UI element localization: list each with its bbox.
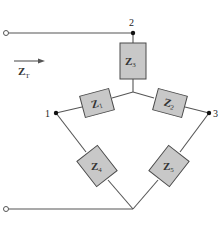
wire-center-z2 <box>133 92 154 98</box>
impedance-z3: Z3 <box>120 43 146 79</box>
impedance-z4: Z4 <box>77 145 117 186</box>
bottom-terminal <box>4 207 9 212</box>
wire-node3-z5 <box>180 113 209 152</box>
zt-arrow-icon <box>14 59 45 64</box>
node-2 <box>131 31 135 35</box>
wire-center-z1 <box>112 92 133 98</box>
circuit-diagram: ZT Z3 Z1 Z2 Z4 Z5 2 1 <box>0 0 223 225</box>
node-1 <box>54 111 58 115</box>
wire-z1-node1 <box>56 107 82 113</box>
impedance-z1: Z1 <box>80 88 115 117</box>
node-1-label: 1 <box>45 108 50 119</box>
wire-z4-bottom <box>108 180 133 209</box>
top-terminal <box>4 31 9 36</box>
node-3 <box>207 111 211 115</box>
wire-z2-node3 <box>185 107 209 113</box>
wire-node1-z4 <box>56 113 86 152</box>
node-3-label: 3 <box>213 108 218 119</box>
zt-label: ZT <box>18 65 30 80</box>
impedance-z2: Z2 <box>153 88 188 117</box>
impedance-z5: Z5 <box>149 145 189 186</box>
node-2-label: 2 <box>129 17 134 28</box>
wire-z5-bottom <box>133 180 158 209</box>
